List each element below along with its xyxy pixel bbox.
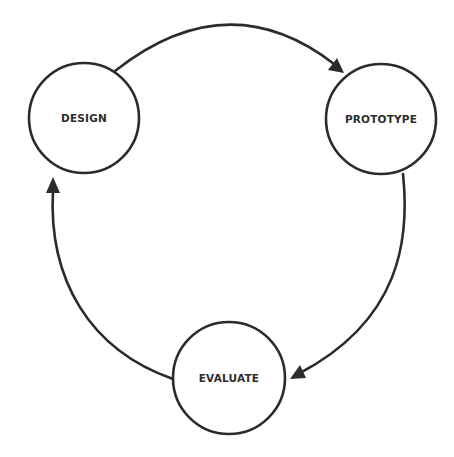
node-design: DESIGN — [29, 63, 139, 173]
node-label-design: DESIGN — [61, 112, 107, 124]
node-label-evaluate: EVALUATE — [199, 372, 259, 384]
arrowhead-icon — [46, 177, 60, 193]
arc-line — [300, 174, 405, 373]
edge-evaluate-to-design — [46, 177, 173, 379]
node-label-prototype: PROTOTYPE — [345, 113, 417, 125]
arc-line — [115, 25, 334, 71]
design-cycle-diagram: DESIGN PROTOTYPE EVALUATE — [0, 0, 454, 457]
edge-prototype-to-evaluate — [290, 174, 405, 379]
arc-line — [53, 190, 173, 379]
node-prototype: PROTOTYPE — [326, 64, 436, 174]
edge-design-to-prototype — [115, 25, 344, 73]
node-evaluate: EVALUATE — [173, 322, 285, 434]
